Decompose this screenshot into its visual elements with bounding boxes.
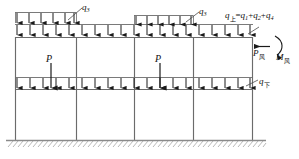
label-point-load-right: P [154,53,161,64]
label-q3-right: q3 [199,6,207,17]
udl-q3-right [134,12,199,25]
label-q-upper-equation: q上=q1+q2+q4 [225,10,274,22]
diagram-canvas: q3 q3 q上=q1+q2+q4 q下 P P P风 M风 [0,0,299,159]
q3-right-leader [186,12,199,22]
udl-upper-full [15,25,253,36]
frame-load-diagram: q3 q3 q上=q1+q2+q4 q下 P P P风 M风 [0,0,299,159]
udl-q3-left [15,8,82,23]
q3-left-leader [68,8,82,20]
label-q-lower: q下 [259,76,270,89]
ground-hatching [8,141,266,147]
label-point-load-left: P [45,53,52,64]
label-wind-moment: M风 [275,52,290,65]
ground-support [6,141,266,148]
label-q3-left: q3 [82,2,90,13]
label-wind-force: P风 [252,48,265,61]
